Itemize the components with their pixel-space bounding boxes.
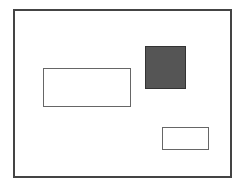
diagram-canvas	[0, 0, 241, 187]
small-empty-rectangle	[162, 127, 209, 150]
dark-filled-square	[145, 46, 186, 89]
wide-empty-rectangle	[43, 68, 131, 107]
